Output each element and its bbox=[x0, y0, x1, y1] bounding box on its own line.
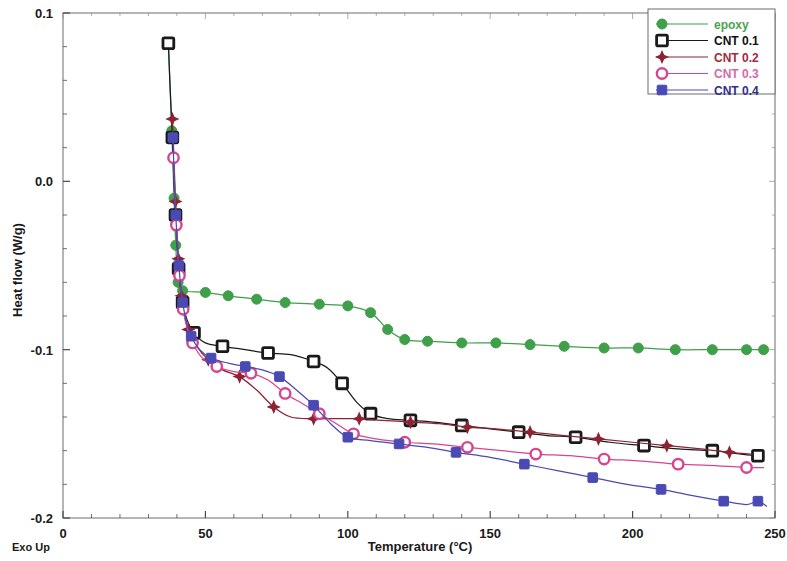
data-marker bbox=[171, 210, 181, 220]
legend-label: CNT 0.1 bbox=[714, 34, 759, 48]
series-cnt-0-1 bbox=[163, 38, 763, 461]
data-marker bbox=[525, 340, 535, 350]
data-marker bbox=[223, 291, 233, 301]
data-marker bbox=[186, 331, 196, 341]
exo-up-note: Exo Up bbox=[12, 541, 50, 553]
y-axis-title: Heat flow (W/g) bbox=[10, 223, 25, 317]
data-marker bbox=[240, 362, 250, 372]
legend-box: epoxyCNT 0.1CNT 0.2CNT 0.3CNT 0.4 bbox=[648, 9, 775, 98]
x-tick-label: 50 bbox=[198, 526, 212, 541]
x-axis-title: Temperature (°C) bbox=[368, 539, 473, 554]
data-marker bbox=[343, 301, 353, 311]
data-marker bbox=[451, 448, 461, 458]
x-tick-label: 100 bbox=[337, 526, 359, 541]
data-marker bbox=[670, 345, 680, 355]
data-marker bbox=[252, 294, 262, 304]
data-marker bbox=[383, 324, 393, 334]
data-marker bbox=[365, 408, 376, 419]
series-line bbox=[168, 43, 758, 455]
data-marker bbox=[657, 68, 667, 78]
data-marker bbox=[457, 338, 467, 348]
data-marker bbox=[753, 450, 764, 461]
data-marker bbox=[639, 440, 650, 451]
data-marker bbox=[661, 440, 672, 451]
data-marker bbox=[280, 388, 290, 398]
data-marker bbox=[657, 35, 668, 46]
data-marker bbox=[656, 485, 666, 495]
data-marker bbox=[217, 341, 228, 352]
y-tick-label: 0.0 bbox=[35, 174, 53, 189]
data-marker bbox=[524, 427, 535, 438]
data-marker bbox=[491, 338, 501, 348]
legend-label: CNT 0.3 bbox=[714, 67, 759, 81]
data-marker bbox=[167, 113, 178, 124]
y-tick-label: -0.1 bbox=[31, 343, 53, 358]
data-marker bbox=[657, 85, 667, 95]
y-tick-label: 0.1 bbox=[35, 6, 53, 21]
data-marker bbox=[309, 400, 319, 410]
data-marker bbox=[163, 38, 174, 49]
data-marker bbox=[673, 459, 683, 469]
data-marker bbox=[599, 343, 609, 353]
data-marker bbox=[337, 378, 348, 389]
data-marker bbox=[366, 308, 376, 318]
data-marker bbox=[308, 356, 319, 367]
data-marker bbox=[394, 439, 404, 449]
data-marker bbox=[314, 299, 324, 309]
chart-figure: 0501001502002500.10.0-0.1-0.2 epoxyCNT 0… bbox=[0, 0, 787, 561]
data-marker bbox=[588, 473, 598, 483]
data-marker bbox=[559, 341, 569, 351]
data-marker bbox=[753, 496, 763, 506]
data-marker bbox=[171, 240, 181, 250]
data-marker bbox=[759, 345, 769, 355]
data-marker bbox=[168, 133, 178, 143]
data-marker bbox=[280, 298, 290, 308]
data-marker bbox=[724, 447, 735, 458]
data-marker bbox=[343, 432, 353, 442]
data-marker bbox=[174, 261, 184, 271]
data-marker bbox=[719, 496, 729, 506]
legend-label: epoxy bbox=[714, 18, 749, 32]
data-marker bbox=[742, 345, 752, 355]
chart-svg: 0501001502002500.10.0-0.1-0.2 epoxyCNT 0… bbox=[0, 0, 787, 561]
data-marker bbox=[707, 345, 717, 355]
x-tick-label: 200 bbox=[622, 526, 644, 541]
series-line bbox=[172, 119, 752, 454]
x-tick-label: 150 bbox=[479, 526, 501, 541]
data-marker bbox=[200, 287, 210, 297]
data-marker bbox=[513, 427, 524, 438]
series-line bbox=[174, 158, 764, 468]
data-marker bbox=[423, 336, 433, 346]
legend-label: CNT 0.4 bbox=[714, 84, 759, 98]
legend-label: CNT 0.2 bbox=[714, 51, 759, 65]
x-tick-label: 250 bbox=[764, 526, 786, 541]
data-series-group bbox=[163, 38, 769, 506]
data-marker bbox=[275, 372, 285, 382]
data-marker bbox=[520, 459, 530, 469]
data-marker bbox=[263, 348, 274, 359]
data-marker bbox=[741, 462, 751, 472]
y-tick-label: -0.2 bbox=[31, 511, 53, 526]
series-cnt-0-2 bbox=[167, 113, 752, 458]
data-marker bbox=[657, 19, 667, 29]
data-marker bbox=[206, 353, 216, 363]
data-marker bbox=[531, 449, 541, 459]
data-marker bbox=[599, 454, 609, 464]
data-marker bbox=[400, 335, 410, 345]
data-marker bbox=[462, 442, 472, 452]
data-marker bbox=[354, 413, 365, 424]
x-tick-label: 0 bbox=[59, 526, 66, 541]
data-marker bbox=[178, 298, 188, 308]
data-marker bbox=[593, 433, 604, 444]
data-marker bbox=[633, 343, 643, 353]
